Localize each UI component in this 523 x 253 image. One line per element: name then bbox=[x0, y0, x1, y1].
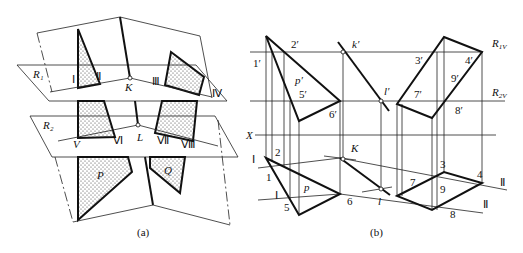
label-6-prime: 6′ bbox=[329, 108, 337, 120]
label-roman-8: Ⅷ bbox=[181, 138, 195, 150]
label-roman-4: Ⅳ bbox=[212, 87, 223, 99]
label-roman-5: V bbox=[73, 138, 81, 150]
label-p: P bbox=[96, 169, 104, 181]
label-l: L bbox=[136, 131, 143, 143]
label-roman-3: Ⅲ bbox=[152, 75, 160, 87]
label-roman-7: Ⅶ bbox=[157, 134, 169, 146]
label-roman-6: Ⅵ bbox=[113, 134, 123, 146]
caption-a: (a) bbox=[137, 226, 150, 239]
label-9: 9 bbox=[440, 183, 446, 195]
figure-a: R₁ R₂ Ⅰ Ⅱ Ⅲ Ⅳ K V Ⅵ L Ⅶ Ⅷ P Q (a) bbox=[17, 17, 238, 239]
label-k: K bbox=[124, 81, 133, 93]
label-8: 8 bbox=[450, 208, 456, 220]
quad-upper-right bbox=[165, 52, 204, 95]
figure-b: 1′ 2′ p′ 5′ 6′ k′ l′ 3′ 4′ 9′ 7′ 8′ R1V … bbox=[245, 36, 507, 239]
label-4: 4 bbox=[477, 168, 483, 180]
label-9-prime: 9′ bbox=[451, 72, 459, 84]
label-roman-1: Ⅰ bbox=[72, 73, 75, 85]
point-l bbox=[136, 123, 140, 127]
label-8-prime: 8′ bbox=[455, 104, 463, 116]
point-k bbox=[128, 76, 132, 80]
label-p-prime: p′ bbox=[294, 74, 304, 86]
label-x-axis: X bbox=[245, 129, 254, 141]
polygon-p bbox=[78, 157, 132, 220]
label-r2v: R2V bbox=[491, 86, 507, 100]
label-roman-1-upper: Ⅰ bbox=[252, 153, 255, 165]
label-3-prime: 3′ bbox=[415, 54, 423, 66]
label-3: 3 bbox=[440, 158, 446, 170]
label-q: Q bbox=[164, 164, 172, 176]
label-roman-2-upper: Ⅱ bbox=[500, 176, 505, 188]
caption-b: (b) bbox=[370, 226, 383, 239]
label-k: K bbox=[350, 142, 359, 154]
label-r1: R₁ bbox=[32, 68, 44, 80]
label-7: 7 bbox=[410, 176, 416, 188]
label-roman-1-lower: Ⅰ bbox=[275, 189, 278, 201]
label-7-prime: 7′ bbox=[414, 88, 422, 100]
diagram-canvas: R₁ R₂ Ⅰ Ⅱ Ⅲ Ⅳ K V Ⅵ L Ⅶ Ⅷ P Q (a) bbox=[0, 0, 523, 253]
label-5: 5 bbox=[284, 201, 290, 213]
label-p: p bbox=[303, 181, 310, 193]
label-r1v: R1V bbox=[491, 37, 507, 51]
label-5-prime: 5′ bbox=[299, 88, 307, 100]
label-roman-2: Ⅱ bbox=[96, 70, 101, 82]
label-2: 2 bbox=[275, 146, 281, 158]
label-6: 6 bbox=[347, 195, 353, 207]
upper-surface-top-edge bbox=[37, 17, 200, 36]
label-k-prime: k′ bbox=[352, 38, 360, 50]
label-roman-2-lower: Ⅱ bbox=[483, 198, 488, 210]
label-l: l bbox=[378, 195, 381, 207]
region-v-vi bbox=[78, 101, 115, 138]
label-l-prime: l′ bbox=[384, 85, 390, 97]
label-4-prime: 4′ bbox=[465, 54, 473, 66]
label-1: 1 bbox=[266, 171, 272, 183]
plane-r2 bbox=[30, 116, 238, 157]
label-r2: R₂ bbox=[42, 119, 54, 131]
label-2-prime: 2′ bbox=[291, 38, 299, 50]
label-1-prime: 1′ bbox=[253, 57, 261, 69]
